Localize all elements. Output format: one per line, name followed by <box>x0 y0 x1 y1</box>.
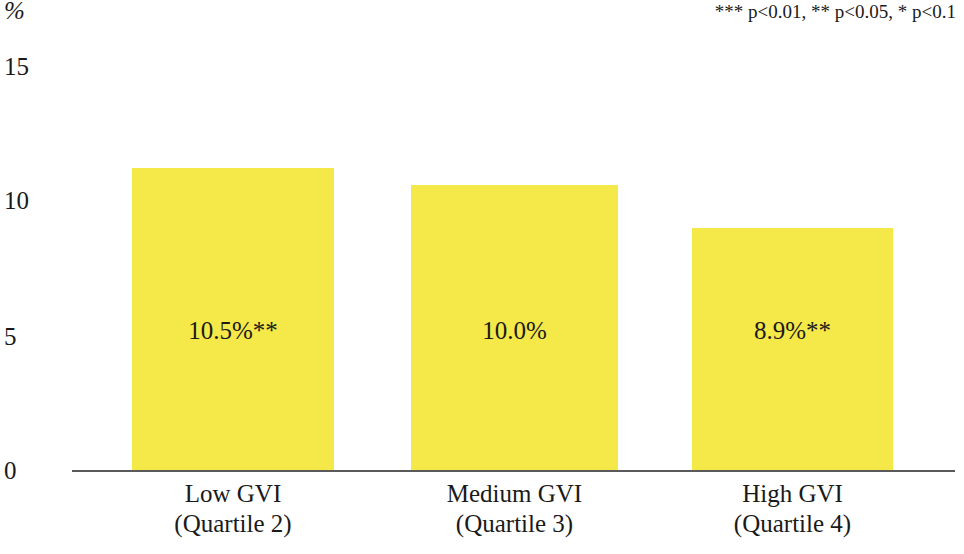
category-label-line1: Low GVI <box>185 480 282 507</box>
x-axis-category-medium-gvi: Medium GVI (Quartile 3) <box>411 479 618 538</box>
bar-medium-gvi: 10.0% <box>411 185 618 471</box>
category-label-line2: (Quartile 4) <box>692 509 893 539</box>
category-label-line1: High GVI <box>742 480 843 507</box>
x-axis-category-low-gvi: Low GVI (Quartile 2) <box>132 479 334 538</box>
category-label-line2: (Quartile 2) <box>132 509 334 539</box>
plot-area: 10.5%** 10.0% 8.9%** Low GVI (Quartile 2… <box>0 0 964 554</box>
x-axis-category-high-gvi: High GVI (Quartile 4) <box>692 479 893 538</box>
category-label-line2: (Quartile 3) <box>411 509 618 539</box>
bar-value-label: 10.5%** <box>132 318 334 343</box>
bar-value-label: 8.9%** <box>692 318 893 343</box>
category-label-line1: Medium GVI <box>447 480 582 507</box>
bar-high-gvi: 8.9%** <box>692 228 893 471</box>
bar-chart: % *** p<0.01, ** p<0.05, * p<0.1 15 10 5… <box>0 0 964 554</box>
x-axis-line <box>72 470 955 472</box>
bar-value-label: 10.0% <box>411 318 618 343</box>
bar-low-gvi: 10.5%** <box>132 168 334 471</box>
